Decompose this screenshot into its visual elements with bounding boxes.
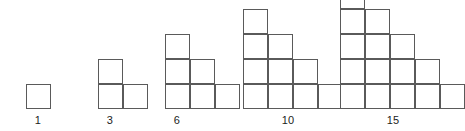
grid-cell bbox=[415, 84, 440, 109]
grid-cell bbox=[390, 34, 415, 59]
grid-cell bbox=[415, 59, 440, 84]
grid-cell bbox=[365, 59, 390, 84]
grid-cell bbox=[190, 84, 215, 109]
grid-cell bbox=[293, 59, 318, 84]
staircase-shape bbox=[340, 0, 465, 109]
figure-count-label: 6 bbox=[137, 115, 217, 126]
grid-cell bbox=[165, 59, 190, 84]
figure-count-label: 15 bbox=[353, 115, 433, 126]
staircase-shape bbox=[26, 84, 51, 109]
staircase-shape bbox=[243, 9, 343, 109]
staircase-shape bbox=[165, 34, 240, 109]
figure-count-label: 1 bbox=[0, 115, 78, 126]
grid-cell bbox=[268, 59, 293, 84]
grid-cell bbox=[165, 34, 190, 59]
grid-cell bbox=[340, 84, 365, 109]
figure-count-label: 10 bbox=[248, 115, 328, 126]
grid-cell bbox=[293, 84, 318, 109]
figure-group: 1 bbox=[26, 84, 51, 109]
grid-cell bbox=[390, 59, 415, 84]
figure-group: 10 bbox=[243, 9, 343, 109]
grid-cell bbox=[243, 34, 268, 59]
grid-cell bbox=[340, 0, 365, 9]
grid-cell bbox=[340, 34, 365, 59]
grid-cell bbox=[268, 84, 293, 109]
grid-cell bbox=[26, 84, 51, 109]
grid-cell bbox=[98, 59, 123, 84]
figure-group: 3 bbox=[98, 59, 148, 109]
grid-cell bbox=[268, 34, 293, 59]
figure-group: 15 bbox=[340, 0, 465, 109]
grid-cell bbox=[215, 84, 240, 109]
grid-cell bbox=[340, 9, 365, 34]
grid-cell bbox=[165, 84, 190, 109]
grid-cell bbox=[365, 34, 390, 59]
figure-group: 6 bbox=[165, 34, 240, 109]
grid-cell bbox=[390, 84, 415, 109]
grid-cell bbox=[340, 59, 365, 84]
staircase-shape bbox=[98, 59, 148, 109]
grid-cell bbox=[123, 84, 148, 109]
grid-cell bbox=[440, 84, 465, 109]
grid-cell bbox=[365, 9, 390, 34]
grid-cell bbox=[243, 84, 268, 109]
grid-cell bbox=[365, 84, 390, 109]
grid-cell bbox=[243, 59, 268, 84]
grid-cell bbox=[190, 59, 215, 84]
grid-cell bbox=[98, 84, 123, 109]
grid-cell bbox=[243, 9, 268, 34]
